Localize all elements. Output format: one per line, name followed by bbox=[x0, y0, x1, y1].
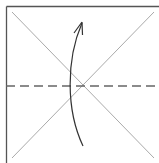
origami-diagram bbox=[0, 0, 159, 163]
fold-up-arrow-icon bbox=[70, 22, 83, 146]
